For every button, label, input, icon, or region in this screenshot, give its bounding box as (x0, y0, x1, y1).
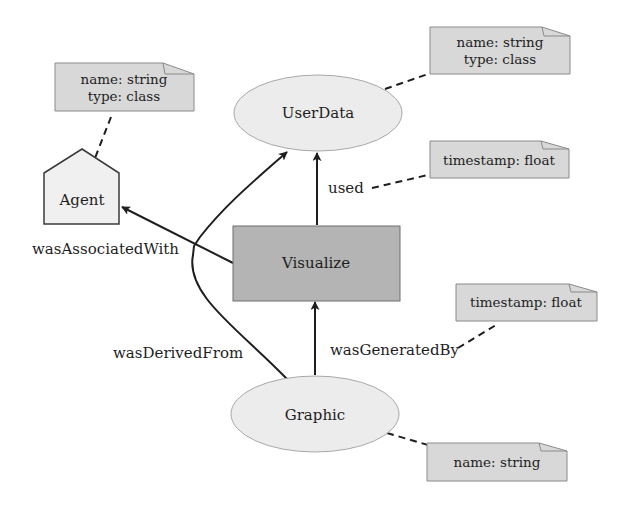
used-note: timestamp: float (430, 141, 569, 178)
agent-note-connector (95, 117, 111, 158)
graphic-note: name: string (427, 443, 567, 481)
used-note-connector (372, 175, 428, 188)
userdata-label: UserData (282, 104, 354, 122)
provenance-diagram: Agent UserData Visualize Graphic used wa… (0, 0, 629, 516)
edge-label-was-associated-with: wasAssociatedWith (32, 240, 179, 258)
edge-label-was-generated-by: wasGeneratedBy (330, 341, 460, 359)
edge-label-was-derived-from: wasDerivedFrom (113, 344, 243, 362)
note-line: timestamp: float (443, 152, 555, 168)
generated-note: timestamp: float (456, 284, 597, 321)
note-line: type: class (88, 88, 160, 104)
graphic-note-connector (387, 433, 428, 445)
userdata-note: name: string type: class (430, 27, 570, 74)
edge-label-used: used (328, 179, 364, 197)
graphic-label: Graphic (285, 406, 346, 424)
agent-node[interactable]: Agent (44, 149, 119, 224)
userdata-node[interactable]: UserData (234, 75, 402, 151)
visualize-node[interactable]: Visualize (233, 226, 400, 301)
userdata-note-connector (385, 74, 428, 89)
note-line: name: string (457, 34, 544, 50)
agent-shape (44, 149, 119, 224)
note-line: name: string (454, 454, 541, 470)
note-line: type: class (464, 51, 536, 67)
generated-note-connector (458, 325, 496, 348)
agent-note: name: string type: class (55, 63, 194, 111)
visualize-label: Visualize (281, 254, 350, 272)
graphic-node[interactable]: Graphic (231, 376, 399, 452)
agent-label: Agent (59, 191, 105, 209)
note-line: name: string (81, 71, 168, 87)
note-line: timestamp: float (470, 294, 582, 310)
